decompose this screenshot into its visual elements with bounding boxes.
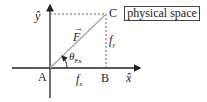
vector-arrow-icon: →: [74, 24, 83, 33]
angle-arc: [62, 56, 67, 68]
point-a-label: A: [38, 71, 47, 83]
point-c-label: C: [109, 7, 117, 19]
fy-label: fy: [109, 34, 115, 49]
point-b-label: B: [101, 72, 109, 84]
x-axis-label: x̂: [126, 72, 131, 84]
vector-f-label: → F: [73, 31, 80, 43]
angle-theta-label: θFx: [69, 51, 82, 65]
fx-label: fx: [76, 73, 82, 88]
y-axis-label: ŷ: [35, 10, 40, 22]
physical-space-label: physical space: [124, 6, 200, 21]
